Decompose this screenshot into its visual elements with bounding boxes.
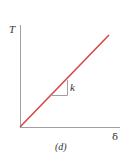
y-axis-label: T: [9, 23, 16, 35]
slope-label: k: [70, 81, 76, 93]
load-deflection-line: [20, 35, 109, 127]
diagram-canvas: T k δ (d): [0, 0, 129, 153]
x-axis-label: δ: [112, 131, 118, 142]
caption: (d): [55, 141, 67, 153]
slope-triangle: [52, 80, 68, 96]
